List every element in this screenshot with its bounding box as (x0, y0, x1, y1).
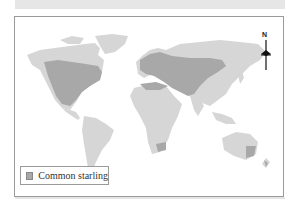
land-arctic-islands (60, 36, 84, 44)
range-se-australia (246, 146, 256, 158)
north-label: N (262, 31, 267, 38)
land-south-america (82, 116, 114, 172)
land-se-asia (212, 112, 236, 124)
range-north-america (44, 60, 102, 106)
compass-icon (261, 40, 271, 70)
land-africa (130, 84, 182, 154)
legend-swatch (26, 172, 33, 180)
legend: Common starling (20, 166, 109, 185)
legend-label: Common starling (38, 170, 108, 181)
land-greenland (95, 34, 128, 54)
land-central-america (62, 108, 80, 120)
